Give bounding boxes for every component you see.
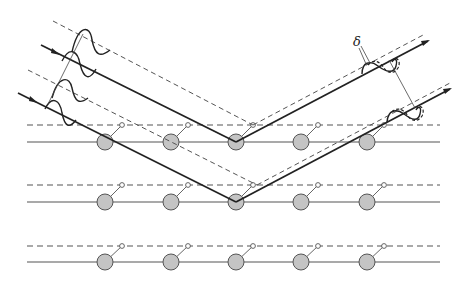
electron-1-1 bbox=[120, 123, 125, 128]
electron-3-3 bbox=[251, 244, 256, 249]
incident-wave-solid-lower bbox=[45, 101, 76, 126]
electron-2-4 bbox=[316, 183, 321, 188]
outgoing-ray-upper bbox=[236, 41, 428, 142]
atom-3-4 bbox=[293, 254, 309, 270]
atom-2-5 bbox=[359, 194, 375, 210]
phase-shift-label: δ bbox=[353, 34, 361, 49]
electron-2-1 bbox=[120, 183, 125, 188]
atom-2-2 bbox=[163, 194, 179, 210]
electron-2-3 bbox=[251, 183, 256, 188]
arrow-icon-incoming-upper bbox=[51, 48, 60, 55]
arrow-icon-outgoing-upper bbox=[421, 40, 430, 46]
atom-2-4 bbox=[293, 194, 309, 210]
arrow-icon-incoming-lower bbox=[29, 96, 38, 103]
atom-3-1 bbox=[97, 254, 113, 270]
electron-3-1 bbox=[120, 244, 125, 249]
scattering-diagram: δ bbox=[0, 0, 472, 289]
atom-3-5 bbox=[359, 254, 375, 270]
atom-3-2 bbox=[163, 254, 179, 270]
incident-wave-dashed-upper bbox=[72, 30, 110, 55]
electron-1-4 bbox=[316, 123, 321, 128]
atom-3-3 bbox=[228, 254, 244, 270]
electron-2-2 bbox=[186, 183, 191, 188]
arrow-icon-outgoing-lower bbox=[443, 88, 452, 94]
scattered-wave-upper-a bbox=[362, 59, 397, 74]
incoming-ray-lower bbox=[18, 93, 236, 202]
electron-1-2 bbox=[186, 123, 191, 128]
outgoing-dashed-ray-lower bbox=[257, 83, 450, 185]
scattered-wavefront-line bbox=[389, 60, 415, 108]
electron-3-4 bbox=[316, 244, 321, 249]
atom-1-4 bbox=[293, 134, 309, 150]
electron-3-5 bbox=[382, 244, 387, 249]
incoming-dashed-ray-lower bbox=[28, 70, 257, 185]
dashed-rays bbox=[28, 21, 450, 185]
atom-1-2 bbox=[163, 134, 179, 150]
atom-2-1 bbox=[97, 194, 113, 210]
electron-3-2 bbox=[186, 244, 191, 249]
incident-wavefront-line bbox=[48, 34, 83, 104]
electron-2-5 bbox=[382, 183, 387, 188]
